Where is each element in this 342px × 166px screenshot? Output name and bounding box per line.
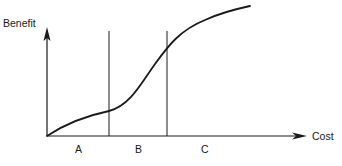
- region-label-a: A: [75, 143, 82, 155]
- benefit-curve: [47, 6, 250, 136]
- cost-benefit-diagram: Benefit Cost A B C: [0, 0, 342, 166]
- y-axis-label: Benefit: [3, 17, 36, 29]
- region-label-b: B: [135, 143, 142, 155]
- region-label-c: C: [201, 143, 209, 155]
- x-axis-label: Cost: [312, 130, 334, 142]
